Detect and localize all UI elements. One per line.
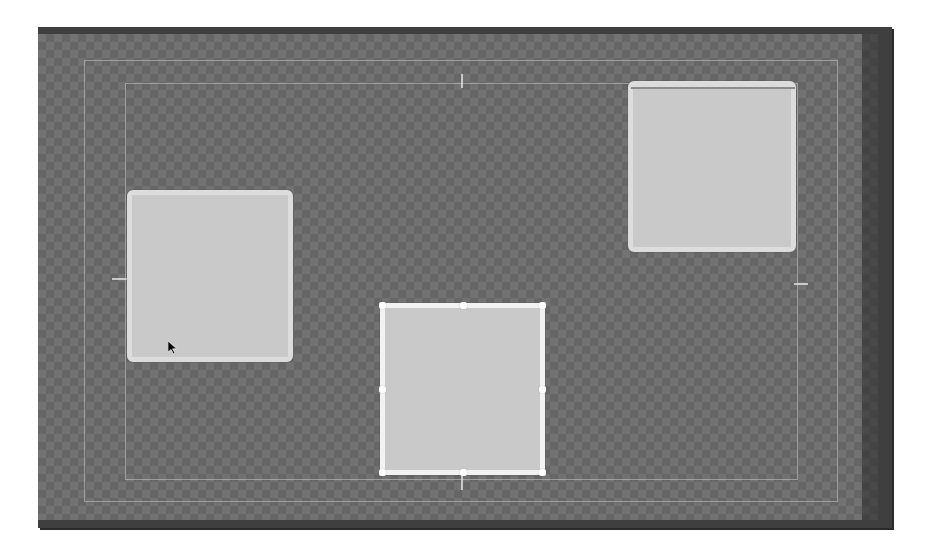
- resize-handle-middle-left[interactable]: [379, 386, 386, 393]
- shape-middle-square-selected[interactable]: [380, 303, 545, 475]
- center-tick-top: [461, 74, 463, 88]
- resize-handle-bottom-right[interactable]: [539, 469, 546, 476]
- resize-handle-top-right[interactable]: [539, 302, 546, 309]
- canvas-edge-shadow: [862, 34, 878, 520]
- shape-left-square[interactable]: [127, 190, 293, 362]
- center-tick-left: [112, 278, 128, 280]
- center-tick-bottom: [461, 474, 463, 490]
- resize-handle-bottom-center[interactable]: [460, 469, 467, 476]
- resize-handle-top-left[interactable]: [379, 302, 386, 309]
- shape-right-square[interactable]: [628, 81, 796, 252]
- resize-handle-top-center[interactable]: [460, 302, 467, 309]
- center-tick-right: [794, 283, 808, 285]
- editor-stage: [0, 0, 932, 558]
- resize-handle-middle-right[interactable]: [539, 386, 546, 393]
- resize-handle-bottom-left[interactable]: [379, 469, 386, 476]
